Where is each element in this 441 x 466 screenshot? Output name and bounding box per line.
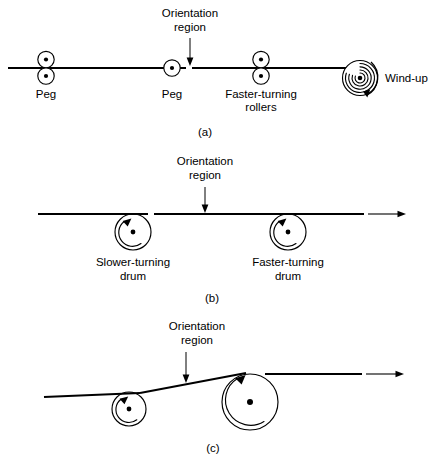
- panel-a: Orientation region Peg Peg: [8, 7, 428, 138]
- panel-c-web-line-in: [44, 393, 140, 397]
- faster-drum-label-line1: Faster-turning: [252, 256, 324, 268]
- panel-b-orientation-arrow: [202, 187, 209, 213]
- wind-up-label: Wind-up: [385, 72, 428, 84]
- faster-rollers-label-line2: rollers: [245, 101, 277, 113]
- panel-b-annotation-line1: Orientation: [177, 155, 233, 167]
- faster-rollers-label-line1: Faster-turning: [225, 88, 297, 100]
- peg-middle-label: Peg: [162, 88, 182, 100]
- faster-drum-label-line2: drum: [275, 270, 301, 282]
- panel-c-large-drum: [222, 374, 278, 430]
- panel-c-direction-arrow: [366, 371, 404, 377]
- slower-turning-drum: [115, 214, 151, 250]
- faster-turning-drum: [270, 214, 306, 250]
- panel-b: Orientation region Slower-turning drum: [38, 155, 406, 304]
- panel-c-small-drum: [112, 392, 146, 426]
- panel-b-annotation-line2: region: [189, 169, 221, 181]
- slower-drum-label-line2: drum: [120, 270, 146, 282]
- panel-b-direction-arrow: [368, 211, 406, 217]
- panel-a-annotation-line2: region: [174, 21, 206, 33]
- peg-middle: [164, 60, 180, 76]
- panel-c-orientation-arrow: [183, 352, 190, 383]
- panel-a-annotation-line1: Orientation: [162, 7, 218, 19]
- panel-a-caption: (a): [198, 126, 212, 138]
- panel-c-annotation-line2: region: [181, 334, 213, 346]
- peg-left-label: Peg: [36, 88, 56, 100]
- orientation-diagram: Orientation region Peg Peg: [0, 0, 441, 466]
- slower-drum-label-line1: Slower-turning: [96, 256, 170, 268]
- panel-c: Orientation region (c): [44, 320, 404, 454]
- wind-up-roll: [343, 61, 378, 98]
- panel-c-caption: (c): [206, 442, 220, 454]
- panel-c-annotation-line1: Orientation: [169, 320, 225, 332]
- figure-root: Orientation region Peg Peg: [0, 0, 441, 466]
- panel-b-caption: (b): [205, 292, 219, 304]
- panel-a-orientation-arrow: [187, 38, 194, 66]
